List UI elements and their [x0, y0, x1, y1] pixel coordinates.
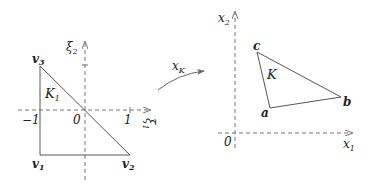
physical-element-panel: x2 x1 0 c b a K	[218, 11, 355, 153]
vertex-v1-label: v1	[32, 157, 45, 172]
element-K-label: K	[266, 67, 278, 82]
x1-axis-label: x1	[343, 137, 355, 153]
vertex-b-label: b	[343, 95, 351, 109]
xi2-axis-label: ξ2	[66, 40, 78, 56]
vertex-v3-label: v3	[32, 52, 45, 67]
reference-element-panel: ξ2 ξ1 v3 v1 v2 K1 −1 0 1	[18, 40, 157, 180]
vertex-a-label: a	[261, 106, 269, 120]
element-K1-label: K1	[44, 86, 60, 103]
vertex-c-label: c	[253, 39, 261, 53]
x2-axis-label: x2	[218, 11, 230, 27]
tick-label-zero: 0	[73, 113, 81, 127]
xi1-axis-label: ξ1	[141, 118, 157, 130]
tick-label-neg-one: −1	[22, 113, 40, 127]
mapping-label: xK	[172, 59, 186, 75]
origin-label: 0	[224, 135, 232, 149]
mapping-arrow-group: xK	[158, 59, 204, 90]
tick-label-one: 1	[124, 113, 132, 127]
vertex-v2-label: v2	[122, 157, 135, 172]
finite-element-mapping-diagram: ξ2 ξ1 v3 v1 v2 K1 −1 0 1 xK x2 x1 0 c b …	[0, 0, 371, 188]
